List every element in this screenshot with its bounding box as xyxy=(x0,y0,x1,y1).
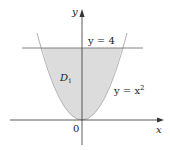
region-diagram: y x 0 y = 4 y = x2 D1 xyxy=(0,0,170,150)
line-equation-label: y = 4 xyxy=(87,35,115,46)
origin-label: 0 xyxy=(73,123,79,134)
x-axis-arrow-icon xyxy=(157,118,164,123)
y-axis-arrow-icon xyxy=(80,9,85,17)
x-axis-label: x xyxy=(156,124,162,135)
y-axis-label: y xyxy=(71,6,78,17)
parabola-equation-label: y = x2 xyxy=(113,84,145,96)
